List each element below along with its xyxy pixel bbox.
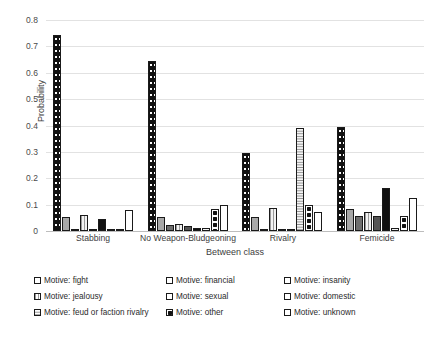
bar bbox=[98, 219, 106, 231]
bar bbox=[409, 198, 417, 231]
legend-swatch-icon bbox=[34, 309, 41, 316]
legend-item[interactable]: Motive: other bbox=[166, 308, 284, 317]
bar bbox=[166, 225, 174, 231]
bar bbox=[287, 229, 295, 231]
legend-swatch-icon bbox=[166, 293, 173, 300]
bar bbox=[314, 212, 322, 231]
legend-swatch-icon bbox=[34, 277, 41, 284]
bar bbox=[53, 35, 61, 231]
bar-group bbox=[235, 20, 330, 231]
gridline bbox=[46, 231, 424, 232]
bar bbox=[62, 217, 70, 232]
bar bbox=[175, 224, 183, 231]
legend-label: Motive: other bbox=[176, 308, 223, 317]
bar bbox=[202, 228, 210, 231]
legend-swatch-icon bbox=[284, 277, 291, 284]
bar bbox=[116, 229, 124, 231]
legend-label: Motive: feud or faction rivalry bbox=[44, 308, 149, 317]
bar-chart-figure: 00.10.20.30.40.50.60.70.8 Probability St… bbox=[0, 0, 446, 339]
bar bbox=[148, 61, 156, 231]
bar bbox=[157, 217, 165, 231]
bar bbox=[364, 212, 372, 231]
bar bbox=[305, 205, 313, 231]
bar bbox=[346, 209, 354, 231]
legend-label: Motive: sexual bbox=[176, 292, 228, 301]
legend-label: Motive: fight bbox=[44, 276, 88, 285]
y-axis-tick-label: 0.8 bbox=[26, 15, 38, 25]
x-axis-title: Between class bbox=[46, 247, 424, 257]
y-axis-tick-label: 0.1 bbox=[26, 200, 38, 210]
bar bbox=[220, 205, 228, 231]
legend-swatch-icon bbox=[34, 293, 41, 300]
bar bbox=[278, 229, 286, 231]
bar-group bbox=[330, 20, 425, 231]
bar-groups bbox=[46, 20, 424, 231]
legend-item[interactable]: Motive: financial bbox=[166, 276, 284, 285]
legend-item[interactable]: Motive: feud or faction rivalry bbox=[34, 308, 166, 317]
bar bbox=[391, 228, 399, 231]
bar-group bbox=[46, 20, 141, 231]
legend-label: Motive: insanity bbox=[294, 276, 350, 285]
bar bbox=[400, 216, 408, 231]
bar bbox=[337, 127, 345, 231]
legend-item[interactable]: Motive: domestic bbox=[284, 292, 434, 301]
legend-item[interactable]: Motive: unknown bbox=[284, 308, 434, 317]
y-axis-tick-label: 0.2 bbox=[26, 173, 38, 183]
bar bbox=[296, 128, 304, 231]
legend-item[interactable]: Motive: sexual bbox=[166, 292, 284, 301]
bar bbox=[251, 217, 259, 231]
bar bbox=[80, 215, 88, 231]
bar bbox=[125, 210, 133, 231]
legend-label: Motive: unknown bbox=[294, 308, 355, 317]
legend-swatch-icon bbox=[166, 309, 173, 316]
legend-swatch-icon bbox=[284, 309, 291, 316]
bar bbox=[242, 153, 250, 231]
legend-label: Motive: domestic bbox=[294, 292, 355, 301]
legend-swatch-icon bbox=[166, 277, 173, 284]
legend-item[interactable]: Motive: fight bbox=[34, 276, 166, 285]
bar bbox=[355, 216, 363, 231]
bar bbox=[269, 208, 277, 231]
legend-swatch-icon bbox=[284, 293, 291, 300]
bar bbox=[184, 226, 192, 231]
bar bbox=[107, 229, 115, 231]
legend-item[interactable]: Motive: insanity bbox=[284, 276, 434, 285]
bar bbox=[373, 216, 381, 231]
bar bbox=[71, 229, 79, 231]
y-axis-title: Probability bbox=[36, 46, 46, 156]
bar bbox=[89, 229, 97, 231]
bar bbox=[260, 229, 268, 231]
y-axis-tick-label: 0 bbox=[33, 226, 38, 236]
bar-group bbox=[141, 20, 236, 231]
chart-legend: Motive: fightMotive: financialMotive: in… bbox=[34, 272, 434, 320]
bar bbox=[382, 188, 390, 231]
bar bbox=[193, 228, 201, 231]
legend-item[interactable]: Motive: jealousy bbox=[34, 292, 166, 301]
plot-area bbox=[46, 20, 424, 231]
legend-label: Motive: financial bbox=[176, 276, 235, 285]
legend-label: Motive: jealousy bbox=[44, 292, 103, 301]
bar bbox=[211, 209, 219, 231]
